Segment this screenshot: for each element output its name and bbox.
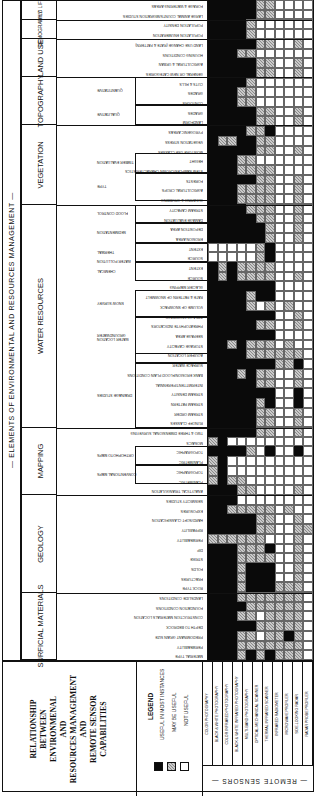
grid-cell <box>237 553 247 563</box>
grid-cell <box>284 272 294 282</box>
grid-cell <box>284 544 294 554</box>
grid-cell <box>294 650 304 660</box>
grid-cell <box>208 398 218 408</box>
grid-cell <box>208 262 218 272</box>
grid-cell <box>227 29 237 39</box>
grid-cell <box>237 301 247 311</box>
sensor-column-header: MULTI-BAND PHOTOGRAPHY <box>243 662 253 765</box>
grid-cell <box>303 10 313 20</box>
grid-cell <box>237 49 247 59</box>
grid-cell <box>218 39 228 49</box>
grid-cell <box>218 311 228 321</box>
grid-cell <box>237 291 247 301</box>
grid-cell <box>275 39 285 49</box>
grid-cell <box>303 311 313 321</box>
element-row-label: DIP <box>57 544 207 554</box>
category-demography: DEMOGRAPHY <box>22 20 57 39</box>
grid-cell <box>218 408 228 418</box>
grid-cell <box>294 514 304 524</box>
grid-cell <box>227 194 237 204</box>
subgroup-bracket <box>135 290 207 317</box>
grid-cell <box>294 476 304 486</box>
grid-cell <box>256 359 266 369</box>
grid-cell <box>237 563 247 573</box>
element-row-label: AGRICULTURAL & URBAN <box>57 58 207 68</box>
grid-cell <box>208 388 218 398</box>
sensor-label: INFRARED RADIOMETER <box>275 692 279 735</box>
grid-cell <box>208 194 218 204</box>
grid-cell <box>227 320 237 330</box>
grid-cell <box>303 476 313 486</box>
grid-cell <box>284 126 294 136</box>
sensor-column-header: COLOR PHOTOGRAPHY <box>203 662 213 765</box>
grid-cell <box>303 262 313 272</box>
grid-cell <box>275 573 285 583</box>
category-mapping: MAPPING <box>22 428 57 495</box>
grid-cell <box>275 602 285 612</box>
grid-cell <box>227 631 237 641</box>
subgroup-bracket <box>135 173 207 201</box>
grid-cell <box>218 437 228 447</box>
grid-cell <box>246 58 256 68</box>
grid-cell <box>208 544 218 554</box>
grid-cell <box>218 165 228 175</box>
grid-cell <box>218 136 228 146</box>
category-label: VEGETATION <box>35 141 44 188</box>
grid-cell <box>208 155 218 165</box>
grid-cell <box>284 379 294 389</box>
category-divider <box>57 20 312 21</box>
grid-cell <box>303 359 313 369</box>
grid-cell <box>208 78 218 88</box>
subgroup-bracket <box>135 465 207 484</box>
grid-cell <box>284 582 294 592</box>
grid-cell <box>294 379 304 389</box>
grid-cell <box>237 311 247 321</box>
grid-cell <box>227 87 237 97</box>
grid-cell <box>275 10 285 20</box>
category-divider <box>57 205 312 206</box>
subgroup-bracket <box>135 205 207 223</box>
grid-cell <box>246 514 256 524</box>
grid-cell <box>256 534 266 544</box>
grid-cell <box>284 97 294 107</box>
grid-cell <box>265 165 275 175</box>
grid-cell <box>265 563 275 573</box>
grid-cell <box>237 165 247 175</box>
grid-cell <box>246 97 256 107</box>
grid-cell <box>303 524 313 534</box>
grid-cell <box>218 175 228 185</box>
grid-cell <box>284 281 294 291</box>
grid-cell <box>227 446 237 456</box>
grid-cell <box>218 398 228 408</box>
grid-cell <box>227 223 237 233</box>
grid-cell <box>227 0 237 10</box>
grid-cell <box>265 10 275 20</box>
element-row-label: PERMEABILITY <box>57 641 207 651</box>
grid-cell <box>275 49 285 59</box>
grid-cell <box>218 291 228 301</box>
grid-cell <box>227 311 237 321</box>
sensor-column-header: OPTICAL-MECHANICAL SCANNER <box>253 662 263 765</box>
grid-cell <box>294 417 304 427</box>
grid-cell <box>237 320 247 330</box>
grid-cell <box>294 10 304 20</box>
grid-cell <box>265 58 275 68</box>
grid-cell <box>294 136 304 146</box>
grid-cell <box>284 349 294 359</box>
grid-cell <box>256 175 266 185</box>
grid-cell <box>218 272 228 282</box>
grid-cell <box>246 39 256 49</box>
grid-cell <box>246 456 256 466</box>
grid-cell <box>256 456 266 466</box>
grid-cell <box>265 456 275 466</box>
grid-cell <box>303 446 313 456</box>
grid-cell <box>275 281 285 291</box>
grid-cell <box>265 301 275 311</box>
grid-cell <box>246 505 256 515</box>
grid-cell <box>208 563 218 573</box>
grid-cell <box>265 495 275 505</box>
element-row-label: PERMEABILITY <box>57 534 207 544</box>
grid-cell <box>284 291 294 301</box>
element-row-label: LARGE ANIMAL COUNTS/MIGRATION STUDIES <box>57 10 207 20</box>
sensor-label: RADAR PROBE PROFILER <box>305 691 309 736</box>
